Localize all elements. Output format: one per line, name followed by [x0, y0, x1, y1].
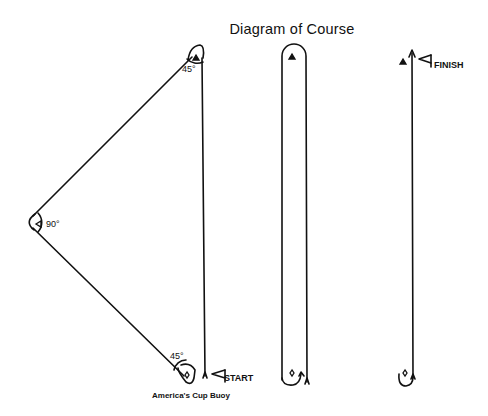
course-loop	[282, 44, 307, 382]
mark-rounding	[29, 214, 35, 230]
course-leg	[33, 57, 192, 216]
course-diagram	[0, 0, 488, 416]
mark-rounding	[399, 374, 413, 386]
triangle-mark-icon	[289, 54, 295, 59]
triangle-mark-icon	[400, 59, 406, 64]
finish-course	[399, 50, 415, 386]
angle-label-left: 90°	[46, 219, 60, 229]
start-label: START	[224, 373, 253, 383]
buoy-label: America's Cup Buoy	[152, 391, 230, 400]
course-leg	[202, 58, 205, 376]
triangle-mark-icon	[193, 55, 199, 60]
triangle-course	[29, 45, 207, 383]
course-leg	[33, 228, 184, 376]
diamond-mark-icon	[185, 372, 189, 378]
diamond-mark-icon	[403, 370, 407, 376]
diamond-mark-icon	[290, 370, 294, 376]
course-leg	[412, 53, 413, 378]
finish-label: FINISH	[434, 60, 464, 70]
windward-leeward-course	[282, 44, 309, 385]
angle-label-top: 45°	[182, 64, 196, 74]
angle-label-bottom: 45°	[170, 351, 184, 361]
triangle-mark-icon	[36, 221, 41, 227]
finish-flag-icon	[419, 55, 431, 67]
